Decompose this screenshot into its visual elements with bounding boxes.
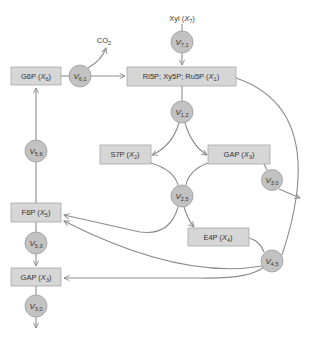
reaction-v61: V6,1	[69, 65, 91, 87]
edge-gap-v30r	[264, 164, 267, 170]
edge-v25-f6p	[64, 207, 178, 232]
svg-text:Ri5P; Xy5P; Ru5P (X1): Ri5P; Xy5P; Ru5P (X1)	[143, 72, 220, 82]
reaction-v30-left: V3,0	[25, 295, 47, 317]
reaction-v56: V5,6	[25, 140, 47, 162]
metabolite-gap-right: GAP (X3)	[208, 145, 270, 164]
metabolite-e4p: E4P (X4)	[188, 228, 249, 246]
metabolite-f6p: F6P (X5)	[11, 203, 61, 222]
co2-label: CO2	[97, 36, 111, 46]
metabolite-gap-left: GAP (X3)	[11, 268, 61, 286]
edge-s7p-v25	[151, 163, 178, 185]
edge-e4p-v45	[249, 238, 264, 252]
xyl-label: Xyl (X7)	[169, 14, 195, 24]
edge-gap-v25	[186, 163, 208, 185]
reaction-v30-right: V3,0	[262, 170, 283, 191]
edge-v25-e4p	[184, 207, 194, 227]
metabolite-ri5p: Ri5P; Xy5P; Ru5P (X1)	[127, 67, 236, 86]
reaction-v25: V2,5	[171, 185, 193, 207]
reaction-v53: V5,3	[25, 232, 47, 254]
reaction-v71: V7,1	[171, 31, 193, 53]
metabolite-s7p: S7P (X2)	[100, 145, 151, 164]
pathway-diagram: G6P (X6) Ri5P; Xy5P; Ru5P (X1) S7P (X2) …	[0, 0, 324, 344]
reaction-v12: V1,2	[171, 101, 193, 123]
edge-v12-s7p	[152, 123, 179, 155]
edge-v61-co2	[88, 48, 106, 68]
metabolite-g6p: G6P (X6)	[11, 67, 61, 85]
edge-v12-gap	[185, 123, 207, 155]
reaction-v45: V4,5	[261, 250, 283, 272]
